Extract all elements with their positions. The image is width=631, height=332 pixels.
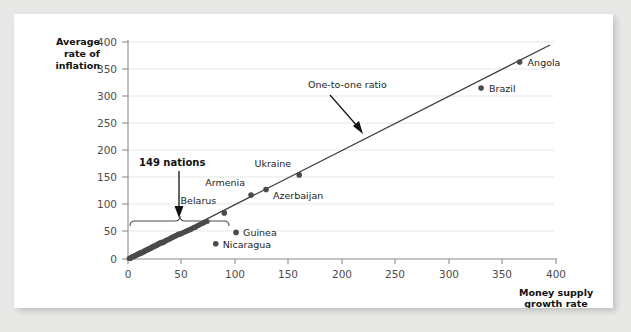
y-tick-label: 300 — [97, 90, 117, 102]
annotation-one-to-one-ratio: One-to-one ratio — [308, 79, 387, 134]
x-tick-label: 150 — [278, 268, 298, 280]
scatter-chart: 400 350 300 250 200 150 100 50 0 0 50 10… — [14, 14, 613, 308]
x-axis-title: Money supply growth rate — [519, 287, 594, 308]
data-point-angola — [517, 59, 523, 65]
y-tick-label: 150 — [97, 171, 117, 183]
data-point-nicaragua — [213, 241, 219, 247]
data-point-brazil — [478, 85, 484, 91]
data-point-label-armenia: Armenia — [205, 177, 245, 188]
data-point-label-azerbaijan: Azerbaijan — [273, 190, 323, 201]
data-point-label-belarus: Belarus — [181, 195, 217, 206]
data-point-azerbaijan — [263, 187, 269, 193]
data-point — [205, 219, 210, 224]
x-tick-label: 0 — [125, 268, 132, 280]
y-tick-label: 100 — [97, 198, 117, 210]
data-point-label-guinea: Guinea — [243, 227, 277, 238]
y-tick-label: 0 — [110, 253, 117, 265]
x-axis-ticks — [128, 259, 556, 264]
data-point-label-ukraine: Ukraine — [255, 158, 292, 169]
x-axis-title-line-1: Money supply — [519, 287, 594, 298]
x-tick-label: 300 — [439, 268, 459, 280]
data-point-label-nicaragua: Nicaragua — [223, 239, 271, 250]
x-tick-label: 250 — [385, 268, 405, 280]
x-tick-labels: 0 50 100 150 200 250 300 350 400 — [125, 268, 566, 280]
x-tick-label: 100 — [225, 268, 245, 280]
data-point-cluster — [127, 219, 210, 261]
data-point — [192, 225, 197, 230]
y-axis-title: Average rate of inflation — [55, 36, 100, 71]
data-point-belarus — [222, 210, 228, 216]
data-point-label-brazil: Brazil — [489, 83, 516, 94]
y-axis-title-line-1: Average — [56, 36, 100, 47]
data-point-guinea — [233, 230, 239, 236]
y-axis-title-line-2: rate of — [64, 48, 101, 59]
data-point-ukraine — [296, 172, 302, 178]
page-background: 400 350 300 250 200 150 100 50 0 0 50 10… — [0, 0, 631, 332]
data-point-armenia — [248, 192, 254, 198]
annotation-149-nations-label: 149 nations — [139, 157, 205, 168]
y-tick-label: 50 — [104, 225, 117, 237]
y-tick-label: 200 — [97, 144, 117, 156]
y-tick-label: 250 — [97, 117, 117, 129]
data-point-label-angola: Angola — [528, 57, 561, 68]
y-axis-title-line-3: inflation — [55, 60, 100, 71]
y-axis-ticks — [122, 42, 128, 259]
x-tick-label: 350 — [492, 268, 512, 280]
x-tick-label: 50 — [174, 268, 187, 280]
x-tick-label: 200 — [332, 268, 352, 280]
figure-card: 400 350 300 250 200 150 100 50 0 0 50 10… — [14, 14, 613, 308]
x-axis-title-line-2: growth rate — [524, 298, 587, 308]
data-point — [196, 223, 201, 228]
annotation-one-to-one-label: One-to-one ratio — [308, 79, 387, 90]
x-tick-label: 400 — [546, 268, 566, 280]
